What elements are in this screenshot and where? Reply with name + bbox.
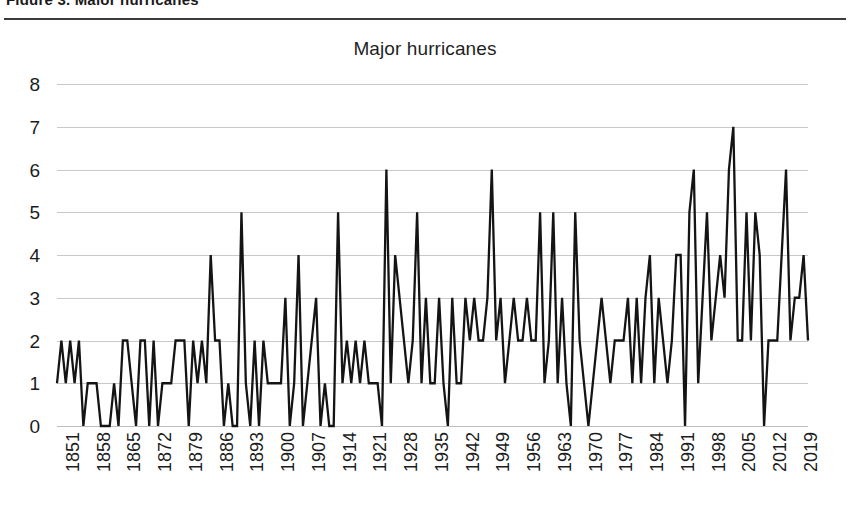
x-tick-label-1921: 1921 (371, 432, 389, 472)
y-tick-label-5: 5 (29, 203, 40, 222)
x-tick-label-1886: 1886 (218, 432, 236, 472)
x-tick-label-1907: 1907 (310, 432, 328, 472)
x-tick-label-1991: 1991 (679, 432, 697, 472)
x-tick-label-1970: 1970 (587, 432, 605, 472)
chart-container: Major hurricanes 876543210 1851185818651… (0, 22, 850, 512)
x-tick-label-2012: 2012 (771, 432, 789, 472)
x-tick-label-1942: 1942 (464, 432, 482, 472)
x-tick-label-1998: 1998 (710, 432, 728, 472)
y-tick-label-6: 6 (29, 160, 40, 179)
x-tick-label-1865: 1865 (125, 432, 143, 472)
y-tick-label-3: 3 (29, 288, 40, 307)
x-tick-label-1956: 1956 (525, 432, 543, 472)
horizontal-rule (4, 18, 846, 20)
x-tick-label-1851: 1851 (64, 432, 82, 472)
x-tick-label-1984: 1984 (648, 432, 666, 472)
series-svg (57, 84, 808, 426)
y-tick-label-1: 1 (29, 374, 40, 393)
x-axis-labels: 1851185818651872187918861893190019071914… (57, 426, 808, 512)
chart-title: Major hurricanes (0, 38, 850, 60)
y-tick-label-4: 4 (29, 246, 40, 265)
x-tick-label-1858: 1858 (95, 432, 113, 472)
x-tick-label-1914: 1914 (341, 432, 359, 472)
y-tick-label-0: 0 (29, 417, 40, 436)
x-tick-label-2005: 2005 (740, 432, 758, 472)
x-tick-label-1963: 1963 (556, 432, 574, 472)
x-tick-label-1935: 1935 (433, 432, 451, 472)
plot-area (57, 84, 808, 426)
y-axis-labels: 876543210 (0, 84, 50, 426)
x-tick-label-1949: 1949 (494, 432, 512, 472)
x-tick-label-1879: 1879 (187, 432, 205, 472)
major-hurricanes-line (57, 127, 808, 426)
y-tick-label-7: 7 (29, 117, 40, 136)
x-tick-label-1900: 1900 (279, 432, 297, 472)
x-tick-label-1928: 1928 (402, 432, 420, 472)
x-tick-label-2019: 2019 (802, 432, 820, 472)
y-tick-label-2: 2 (29, 331, 40, 350)
y-tick-label-8: 8 (29, 75, 40, 94)
page-caption-fragment: Figure 3. Major hurricanes (6, 0, 199, 5)
x-tick-label-1977: 1977 (617, 432, 635, 472)
x-tick-label-1872: 1872 (156, 432, 174, 472)
x-tick-label-1893: 1893 (248, 432, 266, 472)
